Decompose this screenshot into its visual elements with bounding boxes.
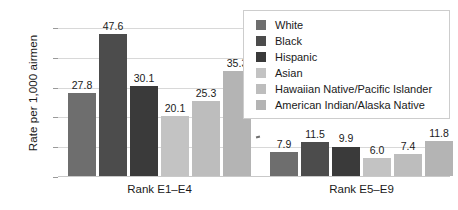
- group-axis-label: Rank E1–E4: [48, 183, 271, 195]
- y-tick-mark: [53, 58, 58, 59]
- bar: [68, 93, 96, 176]
- bar: [301, 142, 329, 176]
- bar-chart: Rate per 1,000 airmen 0102030405027.847.…: [0, 0, 458, 210]
- bar: [130, 86, 158, 176]
- x-axis-line: [58, 176, 450, 177]
- y-tick-mark: [53, 117, 58, 118]
- legend-label: Hawaiian Native/Pacific Islander: [275, 84, 432, 95]
- bar: [270, 152, 298, 176]
- bar: [161, 116, 189, 176]
- y-tick-mark: [53, 147, 58, 148]
- y-axis-title: Rate per 1,000 airmen: [27, 13, 39, 173]
- legend-item: Black: [256, 33, 441, 49]
- legend-item: American Indian/Alaska Native: [256, 97, 441, 113]
- bar-value-label: 20.1: [155, 103, 195, 114]
- bar-value-label: 9.9: [326, 133, 366, 144]
- bar: [363, 158, 391, 176]
- legend-item: Hawaiian Native/Pacific Islander: [256, 81, 441, 97]
- legend-label: White: [275, 20, 303, 31]
- legend-swatch: [256, 100, 266, 110]
- legend-item: Asian: [256, 65, 441, 81]
- legend-swatch: [256, 36, 266, 46]
- bar: [192, 101, 220, 176]
- bar: [394, 154, 422, 176]
- legend-label: American Indian/Alaska Native: [275, 100, 425, 111]
- bar: [99, 34, 127, 176]
- bar-value-label: 25.3: [186, 88, 226, 99]
- legend-label: Asian: [275, 68, 303, 79]
- legend-label: Hispanic: [275, 52, 317, 63]
- y-tick-mark: [53, 28, 58, 29]
- legend-item: White: [256, 17, 441, 33]
- bar-value-label: 7.9: [264, 139, 304, 150]
- legend-swatch: [256, 68, 266, 78]
- bar-value-label: 7.4: [388, 141, 428, 152]
- legend-swatch: [256, 84, 266, 94]
- group-axis-label: Rank E5–E9: [250, 183, 458, 195]
- chart-legend: WhiteBlackHispanicAsianHawaiian Native/P…: [243, 10, 450, 119]
- legend-item: Hispanic: [256, 49, 441, 65]
- bar-value-label: 11.8: [419, 128, 458, 139]
- bar-value-label: 30.1: [124, 73, 164, 84]
- bar-value-label: 27.8: [62, 80, 102, 91]
- legend-swatch: [256, 52, 266, 62]
- bar-value-label: 47.6: [93, 21, 133, 32]
- y-tick-mark: [53, 88, 58, 89]
- bar: [425, 141, 453, 176]
- legend-swatch: [256, 20, 266, 30]
- legend-label: Black: [275, 36, 302, 47]
- y-tick-mark: [53, 177, 58, 178]
- bar: [332, 147, 360, 177]
